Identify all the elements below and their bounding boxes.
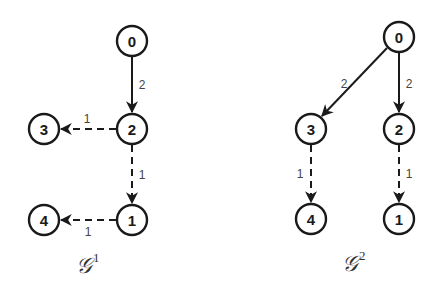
graph-label-sup: 1 [93, 250, 100, 265]
svg-text:2: 2 [395, 121, 403, 138]
svg-text:0: 0 [128, 33, 136, 50]
edge-g2-0-3 [322, 48, 387, 116]
edge-weight: 1 [85, 225, 92, 239]
node-0: 0 [384, 22, 414, 52]
node-1: 1 [384, 204, 414, 234]
svg-text:0: 0 [395, 29, 403, 46]
svg-text:2: 2 [128, 121, 136, 138]
svg-text:4: 4 [307, 211, 316, 228]
graph-diagram: 2 1 1 1 0 2 3 1 4 𝒢 1 2 2 1 1 0 3 2 4 1 … [0, 0, 435, 297]
svg-text:3: 3 [307, 121, 315, 138]
edge-weight: 2 [139, 78, 146, 92]
node-1: 1 [117, 205, 147, 235]
edge-weight: 2 [341, 77, 348, 91]
node-2: 2 [117, 114, 147, 144]
svg-text:3: 3 [40, 121, 48, 138]
node-4: 4 [296, 204, 326, 234]
node-0: 0 [117, 26, 147, 56]
node-3: 3 [29, 114, 59, 144]
svg-text:1: 1 [128, 212, 136, 229]
node-2: 2 [384, 114, 414, 144]
graph-label-sup: 2 [359, 248, 366, 263]
graph-2: 2 2 1 1 0 3 2 4 1 𝒢 2 [296, 22, 414, 276]
graph-1: 2 1 1 1 0 2 3 1 4 𝒢 1 [29, 26, 147, 278]
svg-text:1: 1 [395, 211, 403, 228]
edge-weight: 1 [139, 168, 146, 182]
svg-text:4: 4 [40, 212, 49, 229]
edge-weight: 1 [297, 167, 304, 181]
edge-weight: 1 [406, 167, 413, 181]
edge-weight: 2 [406, 77, 413, 91]
node-4: 4 [29, 205, 59, 235]
edge-weight: 1 [84, 112, 91, 126]
node-3: 3 [296, 114, 326, 144]
